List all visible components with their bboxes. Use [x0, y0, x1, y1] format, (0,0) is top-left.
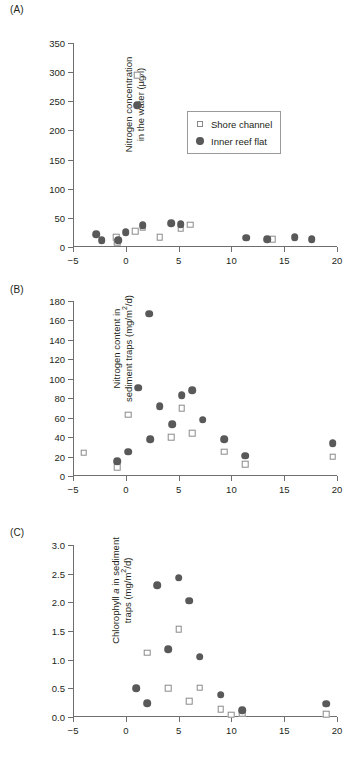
y-tick — [68, 301, 73, 302]
x-tick-label: 0 — [123, 725, 128, 736]
data-point-shore-channel — [218, 706, 225, 713]
panel-c-y-axis-title: Chlorophyll a in sediment traps (mg/m2/d… — [110, 517, 133, 665]
x-tick — [73, 476, 74, 481]
y-tick — [68, 340, 73, 341]
data-point-inner-reef-flat — [196, 653, 204, 661]
data-point-inner-reef-flat — [139, 222, 147, 230]
x-tick-label: −5 — [68, 725, 79, 736]
data-point-inner-reef-flat — [146, 435, 154, 443]
y-tick — [68, 418, 73, 419]
x-tick — [231, 476, 232, 481]
panel-b: (B) Nitrogen content in sediment traps (… — [0, 280, 364, 523]
data-point-shore-channel — [175, 626, 182, 633]
x-tick — [337, 247, 338, 252]
data-point-inner-reef-flat — [178, 392, 186, 400]
y-tick — [68, 602, 73, 603]
y-tick — [68, 43, 73, 44]
legend-item-shore-channel: Shore channel — [194, 117, 272, 131]
panel-a-x-axis — [73, 246, 337, 247]
x-tick-label: 5 — [176, 725, 181, 736]
data-point-inner-reef-flat — [329, 439, 337, 447]
x-tick-label: 0 — [123, 255, 128, 266]
data-point-inner-reef-flat — [164, 646, 172, 654]
x-tick-label: 15 — [279, 725, 290, 736]
panel-a-label: (A) — [10, 4, 24, 15]
data-point-shore-channel — [132, 228, 139, 235]
x-tick-label: 20 — [332, 255, 343, 266]
data-point-inner-reef-flat — [154, 581, 162, 589]
y-tick — [68, 688, 73, 689]
y-tick-label: 0.5 — [52, 683, 65, 694]
data-point-shore-channel — [125, 411, 132, 418]
data-point-shore-channel — [186, 698, 193, 705]
data-point-shore-channel — [144, 649, 151, 656]
filled-circle-icon — [194, 137, 206, 144]
data-point-inner-reef-flat — [135, 384, 143, 392]
y-tick-label: 140 — [49, 334, 65, 345]
y-tick-label: 60 — [54, 412, 65, 423]
data-point-shore-channel — [242, 461, 249, 468]
panel-b-y-axis-title: Nitrogen content in sediment traps (mg/m… — [111, 274, 134, 424]
x-tick — [231, 247, 232, 252]
data-point-inner-reef-flat — [167, 219, 175, 227]
panel-c-x-axis — [73, 716, 337, 717]
x-tick-label: 10 — [226, 725, 237, 736]
data-point-shore-channel — [156, 234, 163, 241]
data-point-inner-reef-flat — [242, 234, 250, 242]
y-tick-label: 50 — [54, 212, 65, 223]
data-point-inner-reef-flat — [238, 706, 246, 714]
data-point-inner-reef-flat — [122, 229, 130, 237]
data-point-shore-channel — [196, 684, 203, 691]
x-tick-label: 15 — [279, 255, 290, 266]
y-tick — [68, 457, 73, 458]
x-tick-label: −5 — [68, 484, 79, 495]
data-point-shore-channel — [228, 711, 235, 718]
data-point-shore-channel — [178, 405, 185, 412]
y-tick-label: 80 — [54, 393, 65, 404]
data-point-inner-reef-flat — [115, 236, 123, 244]
data-point-shore-channel — [189, 430, 196, 437]
y-tick-label: 150 — [49, 154, 65, 165]
data-point-inner-reef-flat — [156, 402, 164, 410]
panel-c-label: (C) — [10, 527, 24, 538]
x-tick-label: 10 — [226, 484, 237, 495]
data-point-shore-channel — [165, 685, 172, 692]
data-point-inner-reef-flat — [143, 699, 151, 707]
y-tick — [68, 545, 73, 546]
data-point-inner-reef-flat — [133, 685, 141, 693]
y-tick-label: 100 — [49, 183, 65, 194]
x-tick-label: 5 — [176, 484, 181, 495]
y-tick — [68, 398, 73, 399]
data-point-inner-reef-flat — [217, 691, 225, 699]
y-tick-label: 1.5 — [52, 626, 65, 637]
y-tick — [68, 218, 73, 219]
y-tick-label: 200 — [49, 125, 65, 136]
x-tick — [337, 717, 338, 722]
panel-a-legend: Shore channel Inner reef flat — [187, 111, 281, 154]
x-tick — [179, 247, 180, 252]
panel-a-y-axis — [73, 43, 74, 247]
y-tick-label: 350 — [49, 38, 65, 49]
x-tick-label: 10 — [226, 255, 237, 266]
data-point-shore-channel — [134, 72, 141, 79]
data-point-inner-reef-flat — [291, 233, 299, 241]
data-point-inner-reef-flat — [185, 597, 193, 605]
y-tick-label: 0 — [60, 471, 65, 482]
x-tick-label: 5 — [176, 255, 181, 266]
x-tick — [284, 247, 285, 252]
y-tick — [68, 130, 73, 131]
data-point-inner-reef-flat — [308, 236, 316, 244]
data-point-inner-reef-flat — [264, 236, 272, 244]
x-tick — [73, 717, 74, 722]
x-tick — [284, 476, 285, 481]
y-tick — [68, 189, 73, 190]
data-point-shore-channel — [168, 434, 175, 441]
panel-a: (A) Nitrogen concentration in the water … — [0, 0, 364, 280]
data-point-inner-reef-flat — [177, 220, 185, 228]
y-tick — [68, 660, 73, 661]
data-point-shore-channel — [187, 222, 194, 229]
y-tick-label: 2.5 — [52, 568, 65, 579]
y-tick-label: 1.0 — [52, 654, 65, 665]
y-tick-label: 0.0 — [52, 712, 65, 723]
y-tick — [68, 437, 73, 438]
